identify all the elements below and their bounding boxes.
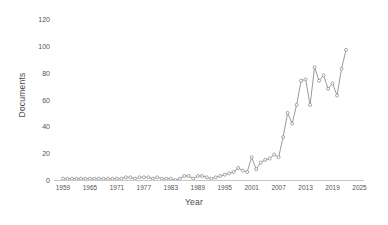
x-tick-label: 1977 (137, 184, 151, 191)
data-point-marker (300, 79, 303, 82)
data-point-marker (111, 177, 114, 180)
data-point-marker (327, 87, 330, 90)
data-point-marker (61, 177, 64, 180)
data-point-marker (124, 176, 127, 179)
data-point-marker (277, 156, 280, 159)
data-point-marker (75, 177, 78, 180)
y-tick-label: 0 (32, 177, 50, 184)
y-tick-label: 20 (32, 150, 50, 157)
data-point-marker (237, 166, 240, 169)
data-point-marker (241, 169, 244, 172)
data-point-marker (97, 177, 100, 180)
y-tick-label: 80 (32, 69, 50, 76)
data-point-marker (336, 94, 339, 97)
data-point-marker (214, 176, 217, 179)
series-line (63, 50, 346, 180)
data-point-marker (304, 78, 307, 81)
x-tick-label: 1983 (164, 184, 178, 191)
data-point-marker (246, 170, 249, 173)
x-tick-label: 2019 (325, 184, 339, 191)
data-point-marker (322, 74, 325, 77)
data-point-marker (192, 177, 195, 180)
y-tick-label: 100 (32, 42, 50, 49)
data-point-marker (102, 177, 105, 180)
data-point-marker (183, 174, 186, 177)
data-point-marker (232, 170, 235, 173)
data-point-marker (268, 157, 271, 160)
data-point-marker (156, 176, 159, 179)
data-point-marker (273, 153, 276, 156)
data-point-marker (174, 179, 177, 181)
data-point-marker (138, 176, 141, 179)
data-point-marker (187, 174, 190, 177)
data-point-marker (223, 173, 226, 176)
data-point-marker (313, 66, 316, 69)
data-point-marker (250, 156, 253, 159)
data-point-marker (129, 176, 132, 179)
plot-area (54, 19, 364, 180)
data-point-marker (151, 177, 154, 180)
data-point-marker (255, 168, 258, 171)
x-axis-title: Year (0, 197, 388, 207)
data-point-marker (345, 48, 348, 51)
data-point-marker (169, 177, 172, 180)
x-tick-label: 2007 (271, 184, 285, 191)
data-point-marker (210, 177, 213, 180)
data-point-marker (165, 177, 168, 180)
data-point-marker (264, 158, 267, 161)
documents-per-year-line-chart: Documents 020406080100120 19591965197119… (0, 0, 388, 225)
x-tick-label: 2025 (352, 184, 366, 191)
x-tick-label: 2001 (244, 184, 258, 191)
y-tick-label: 60 (32, 96, 50, 103)
documents-series (54, 19, 364, 180)
x-tick-label: 2013 (298, 184, 312, 191)
data-point-marker (88, 177, 91, 180)
data-point-marker (309, 103, 312, 106)
x-tick-label: 1959 (56, 184, 70, 191)
y-tick-label: 40 (32, 123, 50, 130)
y-tick-label: 120 (32, 16, 50, 23)
data-point-marker (219, 174, 222, 177)
data-point-marker (120, 177, 123, 180)
data-point-marker (178, 177, 181, 180)
data-point-marker (70, 177, 73, 180)
x-axis-line (54, 180, 364, 181)
data-point-marker (196, 174, 199, 177)
data-point-marker (228, 172, 231, 175)
data-point-marker (147, 176, 150, 179)
data-point-marker (115, 177, 118, 180)
data-point-marker (318, 79, 321, 82)
y-axis-tick-labels: 020406080100120 (30, 19, 50, 180)
data-point-marker (331, 82, 334, 85)
x-tick-label: 1971 (110, 184, 124, 191)
data-point-marker (160, 177, 163, 180)
data-point-marker (340, 67, 343, 70)
x-axis-tick-labels: 1959196519711977198319891995200120072013… (54, 184, 364, 196)
data-point-marker (286, 111, 289, 114)
data-point-marker (205, 176, 208, 179)
x-tick-label: 1989 (191, 184, 205, 191)
data-point-marker (66, 177, 69, 180)
data-point-marker (142, 176, 145, 179)
data-point-marker (259, 161, 262, 164)
data-point-marker (295, 103, 298, 106)
data-point-marker (79, 177, 82, 180)
x-tick-label: 1995 (217, 184, 231, 191)
y-axis-title-text: Documents (17, 73, 27, 118)
data-point-marker (291, 122, 294, 125)
data-point-marker (106, 177, 109, 180)
data-point-marker (282, 136, 285, 139)
data-point-marker (133, 177, 136, 180)
data-point-marker (93, 177, 96, 180)
data-point-marker (201, 174, 204, 177)
data-point-marker (84, 177, 87, 180)
x-tick-label: 1965 (83, 184, 97, 191)
